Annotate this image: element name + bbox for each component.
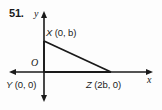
y-axis-bottom-arrowhead (41, 95, 47, 102)
vertex-coords-y: (0, 0) (15, 79, 37, 90)
x-axis-left-arrowhead (9, 69, 16, 75)
x-axis-label: x (147, 75, 151, 85)
vertex-coords-z: (2b, 0) (94, 79, 121, 90)
segment-xz (44, 41, 111, 72)
problem-number: 51. (9, 8, 24, 19)
vertex-label-y: Y (0, 0) (6, 80, 36, 90)
y-axis-top-arrowhead (41, 11, 47, 18)
vertex-label-z: Z (2b, 0) (86, 80, 121, 90)
origin-label: O (31, 58, 38, 68)
geometry-figure: 51. y x O X (0, b) Y (0, 0) Z (2b, 0) (0, 0, 162, 110)
vertex-coords-x: (0, b) (55, 27, 77, 38)
coordinate-plane-drawing (0, 0, 162, 110)
vertex-label-x: X (0, b) (46, 28, 76, 38)
triangle-xyz (44, 41, 111, 72)
y-axis-label: y (34, 9, 38, 19)
